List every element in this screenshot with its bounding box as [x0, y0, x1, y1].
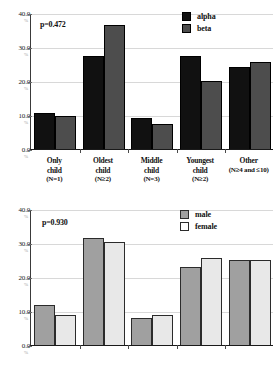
category-line-1: Youngest	[186, 156, 214, 165]
y-axis-unit: %	[0, 18, 30, 23]
y-axis-unit: %	[0, 214, 30, 219]
category-line-1: Only	[47, 156, 62, 165]
bar-male[interactable]	[180, 267, 201, 345]
x-tick-mark	[177, 345, 178, 349]
p-value-annotation-bottom: p=0.930	[42, 218, 68, 227]
legend-swatch-alpha-icon	[182, 12, 191, 21]
x-tick-mark	[177, 149, 178, 153]
y-axis-unit: %	[0, 52, 30, 57]
plot-area-bottom	[30, 210, 273, 346]
y-axis-unit: %	[0, 120, 30, 125]
y-axis-unit: %	[0, 86, 30, 91]
bar-male[interactable]	[83, 238, 104, 345]
category-sample-size: (N≥4 and ≤10)	[218, 166, 279, 176]
bar-male[interactable]	[34, 305, 55, 345]
legend-label: female	[195, 222, 217, 231]
bar-male[interactable]	[229, 260, 250, 345]
category-line-1: Middle	[141, 156, 163, 165]
bar-group	[225, 13, 274, 149]
bar-beta[interactable]	[201, 81, 222, 149]
legend-swatch-female-icon	[180, 222, 189, 231]
bar-group	[80, 13, 129, 149]
y-tick-label: 0.0%	[0, 343, 30, 355]
y-axis-unit: %	[0, 350, 30, 355]
y-tick-label: 20.0%	[0, 79, 30, 91]
y-axis-unit: %	[0, 248, 30, 253]
bar-group	[128, 209, 177, 345]
bar-female[interactable]	[152, 315, 173, 345]
legend-swatch-male-icon	[180, 210, 189, 219]
legend-swatch-beta-icon	[182, 24, 191, 33]
bar-beta[interactable]	[250, 62, 271, 149]
legend-entry-female[interactable]: female	[180, 222, 217, 231]
plot-area-top	[30, 14, 273, 150]
y-tick-label: 40.0%	[0, 11, 30, 23]
bar-beta[interactable]	[55, 116, 76, 149]
bar-male[interactable]	[131, 318, 152, 345]
bar-beta[interactable]	[104, 25, 125, 149]
category-line-1: Oldest	[93, 156, 113, 165]
bar-female[interactable]	[250, 260, 271, 345]
bar-alpha[interactable]	[229, 67, 250, 149]
legend-bottom: malefemale	[180, 210, 217, 231]
x-tick-mark	[225, 149, 226, 153]
figure-container: 0.0%10.0%20.0%30.0%40.0% p=0.472 alphabe…	[0, 0, 280, 366]
bar-group	[31, 13, 80, 149]
legend-label: beta	[197, 24, 211, 33]
y-tick-label: 40.0%	[0, 207, 30, 219]
y-tick-label: 30.0%	[0, 45, 30, 57]
y-axis-unit: %	[0, 282, 30, 287]
bar-alpha[interactable]	[180, 56, 201, 150]
chart-panel-bottom: 0.0%10.0%20.0%30.0%40.0% p=0.930 malefem…	[0, 196, 280, 366]
x-tick-mark	[80, 149, 81, 153]
category-sample-size: (N≥2)	[170, 175, 231, 185]
legend-entry-beta[interactable]: beta	[182, 24, 216, 33]
legend-entry-alpha[interactable]: alpha	[182, 12, 216, 21]
legend-label: alpha	[197, 12, 216, 21]
bar-alpha[interactable]	[83, 56, 104, 150]
x-tick-mark	[225, 345, 226, 349]
y-tick-label: 30.0%	[0, 241, 30, 253]
bar-female[interactable]	[201, 258, 222, 345]
bar-beta[interactable]	[152, 124, 173, 149]
y-axis-unit: %	[0, 316, 30, 321]
x-tick-mark	[128, 345, 129, 349]
bar-group	[225, 209, 274, 345]
y-tick-mark	[28, 346, 32, 347]
legend-entry-male[interactable]: male	[180, 210, 217, 219]
bar-alpha[interactable]	[34, 113, 55, 149]
bar-alpha[interactable]	[131, 118, 152, 149]
category-line-1: Other	[240, 156, 258, 165]
bar-female[interactable]	[104, 242, 125, 345]
bar-group	[31, 209, 80, 345]
y-tick-label: 10.0%	[0, 113, 30, 125]
p-value-annotation-top: p=0.472	[40, 20, 66, 29]
bar-group	[128, 13, 177, 149]
legend-top: alphabeta	[182, 12, 216, 33]
x-axis-category-label: Other(N≥4 and ≤10)	[218, 156, 279, 175]
y-tick-label: 20.0%	[0, 275, 30, 287]
x-tick-mark	[80, 345, 81, 349]
x-tick-mark	[128, 149, 129, 153]
bar-group	[177, 13, 226, 149]
legend-label: male	[195, 210, 211, 219]
y-tick-label: 10.0%	[0, 309, 30, 321]
bar-group	[80, 209, 129, 345]
y-tick-mark	[28, 150, 32, 151]
bar-female[interactable]	[55, 315, 76, 345]
chart-panel-top: 0.0%10.0%20.0%30.0%40.0% p=0.472 alphabe…	[0, 0, 280, 196]
